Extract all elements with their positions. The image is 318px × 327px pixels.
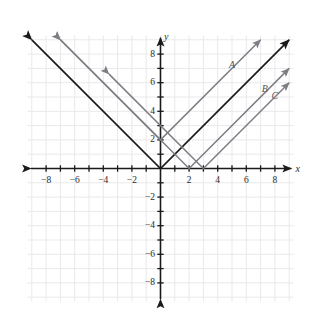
curve-label-a: A: [229, 60, 235, 70]
x-axis-name: x: [295, 164, 299, 174]
coordinate-plane-svg: [0, 0, 318, 327]
x-axis-tick-label: −6: [70, 176, 80, 186]
curve-label-b: B: [262, 84, 268, 94]
x-axis-tick-label: 4: [215, 176, 220, 186]
y-axis-tick-label: −6: [145, 250, 155, 260]
x-axis-tick-label: −4: [98, 176, 108, 186]
y-axis-tick-label: 6: [150, 78, 155, 88]
y-axis-tick-label: −4: [145, 221, 155, 231]
y-axis-tick-label: 4: [150, 107, 155, 117]
graph-figure: −8−6−4−224688642−2−4−6−8xyABC: [0, 0, 318, 327]
x-axis-tick-label: −8: [41, 176, 51, 186]
y-axis-name: y: [164, 32, 168, 42]
curve-label-c: C: [272, 91, 279, 101]
x-axis-tick-label: −2: [127, 176, 137, 186]
x-axis-tick-label: 8: [273, 176, 278, 186]
y-axis-tick-label: −8: [145, 278, 155, 288]
x-axis-tick-label: 6: [244, 176, 249, 186]
x-axis-tick-label: 2: [187, 176, 192, 186]
y-axis-tick-label: 8: [150, 50, 155, 60]
y-axis-tick-label: −2: [145, 193, 155, 203]
y-axis-tick-label: 2: [150, 135, 155, 145]
